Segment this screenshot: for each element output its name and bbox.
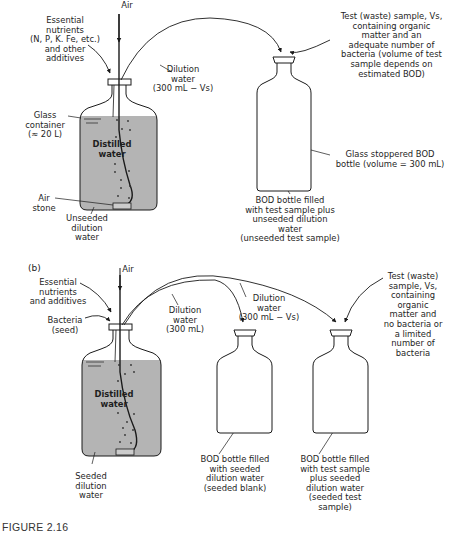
bacteria-label-b: Bacteria (seed)	[44, 316, 86, 335]
figure-caption: FIGURE 2.16	[2, 521, 68, 533]
seeded-dilution-label: Seeded dilution water	[70, 472, 112, 501]
seeded-blank-label: BOD bottle filled with seeded dilution w…	[190, 455, 280, 493]
dilution-water-label-b1: Dilution water (300 mL)	[160, 306, 210, 335]
glass-container-label: Glass container (≈ 20 L)	[22, 111, 68, 140]
seeded-test-label: BOD bottle filled with test sample plus …	[290, 455, 380, 513]
panel-b-label: (b)	[28, 263, 41, 273]
test-sample-label-a: Test (waste) sample, Vs, containing orga…	[330, 12, 453, 79]
unseeded-dilution-label: Unseeded dilution water	[62, 214, 112, 243]
bod-bottle-desc-label: Glass stoppered BOD bottle (volume = 300…	[330, 150, 450, 169]
test-sample-label-b: Test (waste) sample, Vs, containing orga…	[378, 272, 448, 358]
bod-bottle-b-blank	[217, 330, 272, 433]
distilled-water-label-b: Distilled water	[90, 390, 138, 409]
air-label-b: Air	[113, 265, 143, 275]
air-label-a: Air	[112, 1, 142, 11]
bacteria-arrow-b	[85, 316, 110, 321]
bod-bottle-b-test	[313, 330, 368, 433]
test-sample-arrow-a	[290, 40, 330, 53]
air-stone-label: Air stone	[30, 194, 58, 213]
distilled-water-label-a: Distilled water	[88, 140, 136, 159]
dilution-water-arc-b2	[124, 276, 336, 325]
dilution-water-label-b2: Dilution water (300 mL − Vs)	[234, 294, 304, 323]
nutrients-label-a: Essential nutrients (N, P, K. Fe, etc.) …	[20, 16, 110, 64]
nutrients-label-b: Essential nutrients and additives	[26, 278, 90, 307]
bod-bottle-fill-label-a: BOD bottle filled with test sample plus …	[240, 196, 340, 244]
bod-bottle-a	[257, 57, 311, 191]
dilution-water-label-a: Dilution water (300 mL − Vs)	[148, 65, 218, 94]
